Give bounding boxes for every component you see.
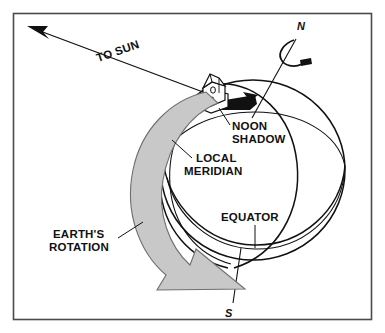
local-meridian-leader <box>172 140 192 158</box>
arrow-to-sun-icon <box>27 26 211 95</box>
earths-rotation-label-line1: EARTH'S <box>53 228 105 240</box>
to-sun-shaft <box>40 31 211 95</box>
earth-rotation-diagram-svg: N S TO SUN <box>0 0 385 333</box>
south-pole-label: S <box>225 307 233 319</box>
polar-axis-upper-segment <box>252 39 296 118</box>
earths-rotation-label-line2: ROTATION <box>49 241 109 253</box>
house-window <box>211 87 216 93</box>
local-meridian-label-line2: MERIDIAN <box>184 165 242 177</box>
noon-shadow-label-line2: SHADOW <box>232 133 286 145</box>
axis-spin-arrow-icon <box>280 40 312 66</box>
equator-label: EQUATOR <box>221 211 279 223</box>
noon-shadow-label-line1: NOON <box>232 120 267 132</box>
local-meridian-label-line1: LOCAL <box>196 152 237 164</box>
north-pole-label: N <box>297 20 306 32</box>
diagram-figure: N S TO SUN <box>0 0 385 333</box>
polar-axis-lower-segment <box>233 248 241 303</box>
axis-spin-arrowhead <box>300 58 312 66</box>
axis-spin-curve <box>280 40 302 66</box>
